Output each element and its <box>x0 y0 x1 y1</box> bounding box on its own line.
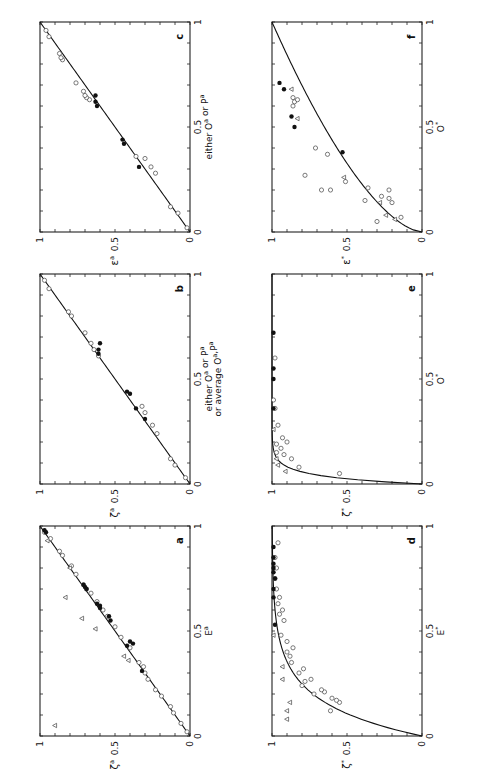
tick-label: 1 <box>267 489 277 495</box>
tick-label: 0 <box>193 229 203 235</box>
tick-label: 1 <box>425 19 435 25</box>
tick-label: 0.5 <box>110 741 120 755</box>
plot-c: 00.5100.51either Oa or Paεac <box>30 10 224 272</box>
x-axis-label: E* <box>434 626 446 636</box>
panel-letter: e <box>406 285 417 292</box>
fit-curve <box>40 274 190 484</box>
panel-a: 00.5100.51Eaζaa <box>30 514 224 773</box>
y-axis-label: ε* <box>340 255 352 264</box>
plot-frame <box>272 526 422 736</box>
tick-label: 0 <box>417 741 427 747</box>
series-circle-open <box>271 356 341 476</box>
x-axis-label: O* <box>434 373 446 384</box>
plot-b: 00.5100.51either Oa or Paor average Oa,P… <box>30 262 224 524</box>
tick-label: 0 <box>193 481 203 487</box>
plot-e: 00.5100.51O*ζ*e <box>262 262 456 524</box>
tick-label: 1 <box>35 741 45 747</box>
tick-label: 1 <box>35 237 45 243</box>
tick-label: 0 <box>185 237 195 243</box>
plot-a: 00.5100.51Eaζaa <box>30 514 224 773</box>
series-triangle-open <box>45 539 130 728</box>
panel-b: 00.5100.51either Oa or Paor average Oa,P… <box>30 262 224 524</box>
tick-label: 1 <box>193 19 203 25</box>
fit-curve <box>272 274 422 484</box>
panel-e: 00.5100.51O*ζ*e <box>262 262 456 524</box>
series-circle-open <box>291 96 403 224</box>
y-axis-label: ζ* <box>340 507 352 516</box>
tick-label: 0 <box>185 741 195 747</box>
tick-label: 1 <box>35 489 45 495</box>
panel-letter: a <box>174 537 185 544</box>
y-axis-label: ζ* <box>340 759 352 768</box>
tick-label: 1 <box>267 237 277 243</box>
panel-f: 00.5100.51O*ε*f <box>262 10 456 272</box>
panel-letter: f <box>406 34 417 39</box>
panel-letter: d <box>406 537 417 544</box>
panel-letter: b <box>174 285 185 292</box>
tick-label: 0.5 <box>342 237 352 251</box>
fit-curve <box>40 22 190 232</box>
y-axis-label: ζa <box>108 508 120 517</box>
panel-letter: c <box>174 34 185 40</box>
tick-label: 0.5 <box>342 489 352 503</box>
y-axis-label: ζa <box>108 760 120 769</box>
tick-label: 1 <box>267 741 277 747</box>
panel-d: 00.5100.51E*ζ*d <box>262 514 456 773</box>
tick-label: 0 <box>417 489 427 495</box>
tick-label: 0.5 <box>110 489 120 503</box>
y-axis-label: εa <box>108 256 120 265</box>
tick-label: 0.5 <box>342 741 352 755</box>
tick-label: 0 <box>425 481 435 487</box>
tick-label: 0 <box>425 733 435 739</box>
tick-label: 0.5 <box>110 237 120 251</box>
series-circle-open <box>273 541 342 713</box>
tick-label: 0 <box>417 237 427 243</box>
plot-d: 00.5100.51E*ζ*d <box>262 514 456 773</box>
x-axis-label: Ea <box>202 626 214 636</box>
plot-frame <box>272 274 422 484</box>
series-circle-filled <box>96 341 147 421</box>
tick-label: 0 <box>193 733 203 739</box>
plot-f: 00.5100.51O*ε*f <box>262 10 456 272</box>
panel-c: 00.5100.51either Oa or Paεac <box>30 10 224 272</box>
tick-label: 0 <box>425 229 435 235</box>
fit-curve <box>272 526 422 736</box>
x-axis-label: O* <box>434 121 446 132</box>
tick-label: 0 <box>185 489 195 495</box>
